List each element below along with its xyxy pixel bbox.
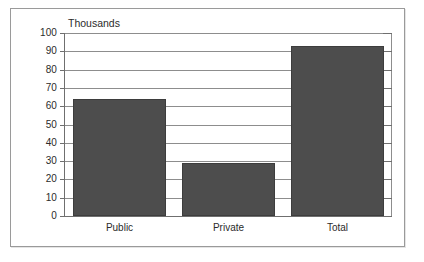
y-axis-label: 80 [46,65,57,75]
chart-title: Thousands [68,18,120,29]
y-axis-tick [60,161,65,162]
y-axis-label: 30 [46,156,57,166]
bar-total [291,46,385,216]
y-axis-label: 0 [51,211,57,221]
y-axis-label: 100 [40,28,57,38]
plot-area: 0102030405060708090100 PublicPrivateTota… [64,33,392,217]
y-axis-label: 20 [46,174,57,184]
y-axis-tick [60,216,65,217]
gridline [65,33,392,34]
x-axis-label-public: Public [106,223,133,233]
y-axis-tick [60,33,65,34]
y-axis-label: 70 [46,83,57,93]
y-axis-tick [60,88,65,89]
y-axis-tick [60,125,65,126]
y-axis-label: 50 [46,120,57,130]
y-axis-tick [60,198,65,199]
bar-private [182,163,276,216]
y-axis-tick [60,51,65,52]
x-axis-label-private: Private [213,223,244,233]
y-axis-tick [60,106,65,107]
y-axis-tick [60,179,65,180]
y-axis-tick [60,143,65,144]
bar-public [73,99,167,216]
chart-frame: Thousands 0102030405060708090100 PublicP… [10,8,405,247]
y-axis-tick-right [383,33,392,34]
y-axis-tick [60,70,65,71]
y-axis-label: 40 [46,138,57,148]
x-axis-label-total: Total [327,223,348,233]
y-axis-label: 60 [46,101,57,111]
y-axis-label: 10 [46,193,57,203]
y-axis-label: 90 [46,46,57,56]
